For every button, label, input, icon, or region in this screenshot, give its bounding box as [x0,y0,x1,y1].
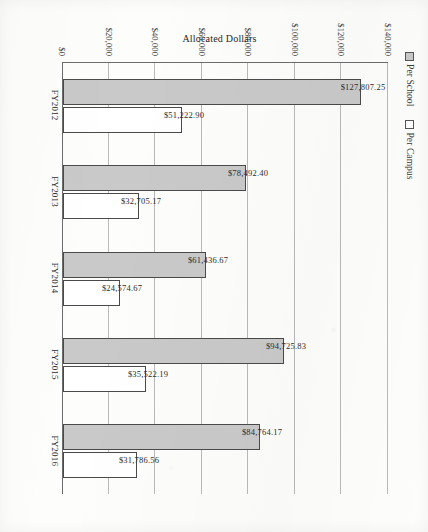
y-axis-tick-label: $100,000 [290,23,300,56]
bar-group: $61,436.67$24,574.67 [63,235,388,321]
bar-per-campus: $24,574.67 [63,280,120,306]
bar-per-school: $94,725.83 [63,338,284,364]
bar-value-label: $127,807.25 [340,82,385,92]
x-axis-tick-labels: FY2012FY2013FY2014FY2015FY2016 [50,62,60,494]
x-axis-tick-label: FY2012 [50,62,60,148]
x-axis-tick-label: FY2015 [50,321,60,407]
outline-white-square-icon [406,120,415,129]
chart-legend: Per School Per Campus [405,52,415,180]
legend-label-per-campus: Per Campus [405,132,415,179]
bar-per-school: $61,436.67 [63,252,206,278]
bar-per-school: $84,764.17 [63,424,260,450]
bar-value-label: $51,222.90 [164,110,204,120]
x-axis-tick-label: FY2016 [50,408,60,494]
bar-per-campus: $31,786.56 [63,452,137,478]
y-axis-tick-labels: $0$20,000$40,000$60,000$80,000$100,000$1… [62,0,388,60]
bar-per-school: $78,492.40 [63,165,246,191]
bar-group: $84,764.17$31,786.56 [63,408,388,494]
legend-item-per-campus: Per Campus [405,120,415,179]
bar-group: $94,725.83$35,522.19 [63,322,388,408]
y-axis-tick-label: $40,000 [150,28,160,56]
bar-value-label: $31,786.56 [119,455,159,465]
bar-value-label: $24,574.67 [102,283,142,293]
legend-item-per-school: Per School [405,52,415,106]
bar-value-label: $78,492.40 [228,168,268,178]
bar-value-label: $61,436.67 [188,255,228,265]
filled-gray-square-icon [406,52,415,61]
bar-group: $127,807.25$51,222.90 [63,63,388,149]
y-axis-tick-label: $140,000 [383,23,393,56]
bar-per-school: $127,807.25 [63,79,361,105]
legend-label-per-school: Per School [405,64,415,106]
bar-value-label: $94,725.83 [265,341,305,351]
bar-groups: $127,807.25$51,222.90$78,492.40$32,705.1… [63,63,388,494]
bar-per-campus: $51,222.90 [63,107,182,133]
bar-group: $78,492.40$32,705.17 [63,149,388,235]
plot-area: $127,807.25$51,222.90$78,492.40$32,705.1… [62,62,388,494]
x-axis-tick-label: FY2013 [50,148,60,234]
bar-per-campus: $32,705.17 [63,193,139,219]
y-axis-tick-label: $60,000 [197,28,207,56]
scanned-page: Per School Per Campus Allocated Dollars … [0,0,428,532]
y-axis-tick-label: $120,000 [336,23,346,56]
bar-value-label: $35,522.19 [128,369,168,379]
y-axis-tick-label: $80,000 [243,28,253,56]
bar-value-label: $32,705.17 [121,196,161,206]
x-axis-tick-label: FY2014 [50,235,60,321]
bar-chart: Per School Per Campus Allocated Dollars … [0,0,428,532]
rotated-chart-container: Per School Per Campus Allocated Dollars … [0,0,428,532]
bar-per-campus: $35,522.19 [63,366,146,392]
y-axis-tick-label: $20,000 [104,28,114,56]
y-axis-tick-label: $0 [57,47,67,56]
bar-value-label: $84,764.17 [242,427,282,437]
